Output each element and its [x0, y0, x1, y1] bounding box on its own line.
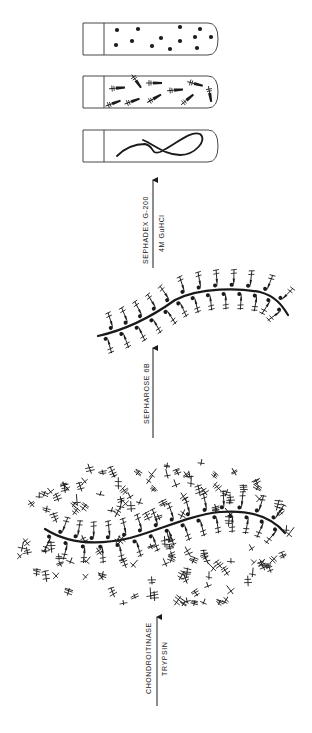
label-trypsin: TRYPSIN	[161, 642, 168, 676]
core-backbone-group	[98, 269, 295, 354]
dots-cluster	[114, 25, 213, 51]
diagram-canvas: SEPHADEX G-200 4M GuHCl SEPHAROSE 6B CHO…	[0, 0, 312, 733]
tube-hyaluronate	[83, 130, 218, 162]
label-guhcl: 4M GuHCl	[158, 215, 165, 252]
label-sephadex: SEPHADEX G-200	[142, 196, 149, 264]
gag-chain-cloud	[15, 458, 298, 608]
aggregate-backbone	[45, 512, 285, 543]
label-sepharose: SEPHAROSE 6B	[143, 363, 150, 424]
hyaluronate-strand	[117, 133, 202, 156]
core-attachments	[103, 269, 295, 354]
tube-fragments	[83, 73, 218, 109]
fragments-cluster	[105, 73, 215, 109]
label-chondroitinase: CHONDROITINASE	[145, 622, 152, 694]
tube-dots	[83, 23, 218, 55]
diagram-svg	[0, 0, 312, 733]
aggregate-group	[15, 458, 298, 608]
